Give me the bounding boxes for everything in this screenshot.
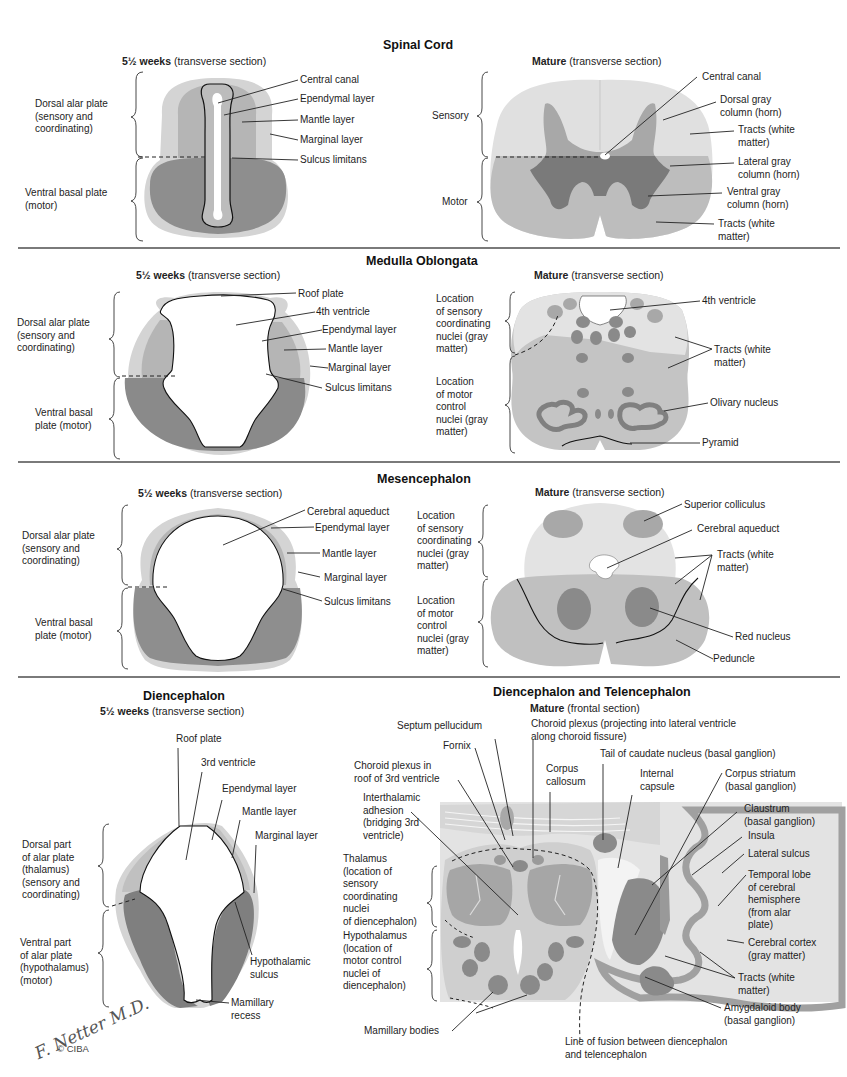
callout-label: Ventral gray column (horn) bbox=[727, 186, 789, 211]
callout-label: Tracts (white matter) bbox=[717, 549, 774, 574]
callout-label: Septum pellucidum bbox=[397, 720, 482, 733]
callout-label: Lateral gray column (horn) bbox=[738, 156, 800, 181]
section-title-diencephalon: Diencephalon bbox=[143, 689, 225, 703]
central-canal bbox=[600, 153, 610, 160]
side-label: Ventral basal plate (motor) bbox=[25, 187, 107, 212]
callout-label: 4th ventricle bbox=[702, 295, 756, 308]
stage-label: 5½ weeks bbox=[122, 55, 171, 67]
callout-label: Hypothalamus (location of motor control … bbox=[343, 930, 407, 993]
callout-label: Tracts (white matter) bbox=[718, 218, 775, 243]
callout-label: Claustrum (basal ganglion) bbox=[744, 803, 815, 828]
side-label: Ventral basal plate (motor) bbox=[35, 407, 93, 432]
callout-label: Roof plate bbox=[176, 733, 222, 746]
callout-label: Marginal layer bbox=[300, 134, 363, 147]
side-label: Location of motor control nuclei (gray m… bbox=[417, 595, 469, 658]
callout-label: Marginal layer bbox=[255, 830, 318, 843]
callout-label: Line of fusion between diencephalon and … bbox=[565, 1036, 727, 1061]
brace-icon bbox=[117, 588, 128, 669]
callout-label: Marginal layer bbox=[328, 362, 391, 375]
section-type: (transverse section) bbox=[187, 487, 282, 499]
callout-label: Red nucleus bbox=[735, 631, 791, 644]
stage-label: 5½ weeks bbox=[136, 269, 185, 281]
section-type: (transverse section) bbox=[568, 269, 663, 281]
callout-label: Pyramid bbox=[702, 437, 739, 450]
mature-subtitle: Mature (frontal section) bbox=[530, 702, 640, 714]
brace-icon bbox=[109, 378, 120, 459]
medulla-mature-section bbox=[511, 292, 712, 450]
section-title-telencephalon: Diencephalon and Telencephalon bbox=[493, 685, 691, 699]
stage-label: 5½ weeks bbox=[138, 487, 187, 499]
side-label: Ventral part of alar plate (hypothalamus… bbox=[20, 937, 89, 987]
section-title-spinal-cord: Spinal Cord bbox=[383, 38, 453, 52]
callout-label: 3rd ventricle bbox=[201, 757, 255, 770]
section-type: (frontal section) bbox=[564, 702, 639, 714]
callout-label: Corpus striatum (basal ganglion) bbox=[725, 768, 796, 793]
side-label: Dorsal part of alar plate (thalamus) (se… bbox=[22, 839, 80, 902]
side-label: Dorsal alar plate (sensory and coordinat… bbox=[35, 98, 108, 136]
brace-icon bbox=[427, 930, 437, 1001]
brace-icon bbox=[131, 72, 143, 157]
callout-label: Mantle layer bbox=[300, 114, 354, 127]
callout-label: Cerebral cortex (gray matter) bbox=[748, 937, 816, 962]
callout-label: Corpus callosum bbox=[546, 763, 585, 788]
callout-label: Peduncle bbox=[713, 653, 755, 666]
brace-icon bbox=[109, 292, 120, 377]
brace-icon bbox=[477, 72, 488, 157]
section-type: (transverse section) bbox=[185, 269, 280, 281]
section-type: (transverse section) bbox=[569, 486, 664, 498]
callout-label: Sulcus limitans bbox=[300, 154, 367, 167]
callout-label: Tracts (white matter) bbox=[714, 344, 771, 369]
brace-icon bbox=[117, 505, 128, 585]
embryo-subtitle: 5½ weeks (transverse section) bbox=[138, 487, 282, 499]
callout-label: Sulcus limitans bbox=[324, 596, 391, 609]
callout-label: Fornix bbox=[443, 740, 471, 753]
section-title-medulla: Medulla Oblongata bbox=[366, 254, 478, 268]
spinal-embryo-section bbox=[138, 78, 298, 238]
callout-label: Mamillary recess bbox=[231, 997, 274, 1022]
callout-label: Tracts (white matter) bbox=[738, 972, 795, 997]
brace-icon bbox=[98, 910, 109, 1007]
callout-label: 4th ventricle bbox=[316, 306, 370, 319]
mamillary-body bbox=[520, 975, 540, 995]
embryo-subtitle: 5½ weeks (transverse section) bbox=[122, 55, 266, 67]
side-label: Sensory bbox=[432, 110, 469, 123]
callout-label: Insula bbox=[748, 830, 775, 843]
side-label: Location of motor control nuclei (gray m… bbox=[436, 376, 488, 439]
callout-label: Tracts (white matter) bbox=[738, 124, 795, 149]
callout-label: Dorsal gray column (horn) bbox=[720, 94, 782, 119]
side-label: Motor bbox=[442, 196, 468, 209]
callout-label: Ependymal layer bbox=[315, 522, 389, 535]
callout-label: Mantle layer bbox=[328, 343, 382, 356]
spinal-mature-section bbox=[490, 77, 734, 239]
septum-pellucidum bbox=[500, 806, 514, 830]
callout-label: Mamillary bodies bbox=[364, 1025, 439, 1038]
brace-icon bbox=[477, 158, 488, 241]
stage-label: Mature bbox=[532, 55, 566, 67]
callout-label: Central canal bbox=[702, 71, 761, 84]
red-nucleus bbox=[557, 588, 591, 630]
callout-label: Tail of caudate nucleus (basal ganglion) bbox=[600, 748, 776, 761]
callout-label: Mantle layer bbox=[322, 548, 376, 561]
callout-label: Central canal bbox=[300, 74, 359, 87]
superior-colliculus bbox=[623, 510, 663, 538]
section-divider bbox=[18, 676, 840, 678]
brace-icon bbox=[98, 824, 109, 907]
section-divider bbox=[18, 461, 840, 463]
side-label: Ventral basal plate (motor) bbox=[35, 617, 93, 642]
medulla-embryo-section bbox=[122, 292, 328, 455]
caudate-tail bbox=[593, 833, 617, 853]
callout-label: Ependymal layer bbox=[300, 93, 374, 106]
stage-label: Mature bbox=[530, 702, 564, 714]
callout-label: Internal capsule bbox=[640, 768, 674, 793]
callout-label: Marginal layer bbox=[324, 572, 387, 585]
section-type: (transverse section) bbox=[171, 55, 266, 67]
mamillary-body bbox=[488, 975, 508, 995]
section-type: (transverse section) bbox=[566, 55, 661, 67]
side-label: Dorsal alar plate (sensory and coordinat… bbox=[17, 317, 90, 355]
brace-icon bbox=[131, 158, 143, 241]
mesencephalon-embryo-section bbox=[128, 508, 322, 672]
stage-label: Mature bbox=[534, 269, 568, 281]
brace-icon bbox=[427, 866, 437, 927]
stage-label: Mature bbox=[535, 486, 569, 498]
embryo-subtitle: 5½ weeks (transverse section) bbox=[100, 705, 244, 717]
